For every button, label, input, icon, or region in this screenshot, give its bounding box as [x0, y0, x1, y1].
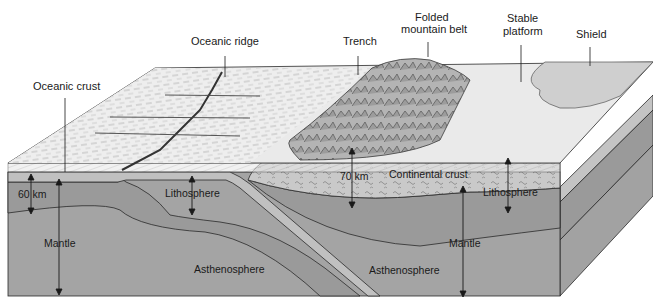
label-70km: 70 km	[340, 170, 369, 182]
label-folded-line1: Folded	[415, 11, 449, 23]
plate-tectonics-block-diagram: Oceanic crust Oceanic ridge Trench Folde…	[0, 0, 653, 305]
label-oceanic-crust: Oceanic crust	[33, 80, 100, 92]
label-60km: 60 km	[18, 188, 47, 200]
label-stable-line1: Stable	[507, 12, 538, 24]
label-asthenosphere-right: Asthenosphere	[369, 264, 440, 276]
cross-section-front-face	[8, 150, 560, 296]
label-lithosphere-left: Lithosphere	[165, 187, 220, 199]
label-shield: Shield	[576, 28, 607, 40]
label-stable-line2: platform	[503, 25, 543, 37]
label-mantle-right: Mantle	[449, 237, 481, 249]
label-folded-line2: mountain belt	[401, 23, 467, 35]
label-mantle-left: Mantle	[44, 237, 76, 249]
label-continental-crust: Continental crust	[389, 168, 468, 180]
block-top-surface	[8, 59, 653, 170]
label-lithosphere-right: Lithosphere	[483, 186, 538, 198]
label-trench: Trench	[343, 35, 377, 47]
shield-region	[531, 62, 653, 108]
label-asthenosphere-left: Asthenosphere	[194, 263, 265, 275]
label-oceanic-ridge: Oceanic ridge	[191, 35, 259, 47]
